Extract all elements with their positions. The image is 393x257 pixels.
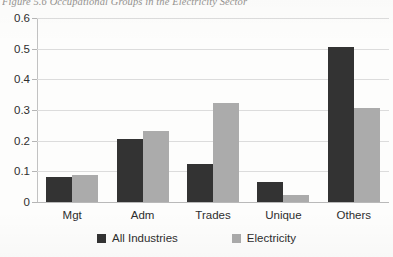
bar-group: Adm: [107, 18, 177, 202]
bar-group: Trades: [178, 18, 248, 202]
legend-label: Electricity: [247, 232, 296, 244]
x-axis-label: Mgt: [37, 209, 107, 221]
plot-area: 00.10.20.30.40.50.6 MgtAdmTradesUniqueOt…: [37, 18, 389, 202]
y-axis-label: 0.4: [14, 73, 30, 85]
legend-item: Electricity: [232, 232, 296, 244]
legend-swatch: [97, 234, 106, 243]
bar: [46, 177, 72, 202]
legend-item: All Industries: [97, 232, 178, 244]
bar: [354, 108, 380, 202]
figure-caption: Figure 5.6 Occupational Groups in the El…: [2, 0, 392, 8]
bar: [117, 139, 143, 202]
bar: [257, 182, 283, 202]
bar-group: Others: [319, 18, 389, 202]
legend-label: All Industries: [112, 232, 178, 244]
gridline: 0: [37, 202, 389, 203]
y-axis-tick: [32, 202, 37, 203]
bar: [213, 103, 239, 202]
x-axis-label: Unique: [248, 209, 318, 221]
x-axis-label: Trades: [178, 209, 248, 221]
bar-group: Mgt: [37, 18, 107, 202]
y-axis-label: 0.6: [14, 12, 30, 24]
legend-swatch: [232, 234, 241, 243]
bar-groups: MgtAdmTradesUniqueOthers: [37, 18, 389, 202]
bar: [72, 175, 98, 202]
y-axis-label: 0.2: [14, 135, 30, 147]
x-axis-label: Adm: [107, 209, 177, 221]
y-axis-label: 0: [24, 196, 30, 208]
bar: [283, 195, 309, 202]
y-axis-label: 0.1: [14, 165, 30, 177]
bar: [328, 47, 354, 202]
bar-group: Unique: [248, 18, 318, 202]
bar: [187, 164, 213, 202]
chart-legend: All IndustriesElectricity: [0, 232, 393, 244]
bar: [143, 131, 169, 202]
x-axis-label: Others: [319, 209, 389, 221]
y-axis-label: 0.5: [14, 43, 30, 55]
y-axis-label: 0.3: [14, 104, 30, 116]
